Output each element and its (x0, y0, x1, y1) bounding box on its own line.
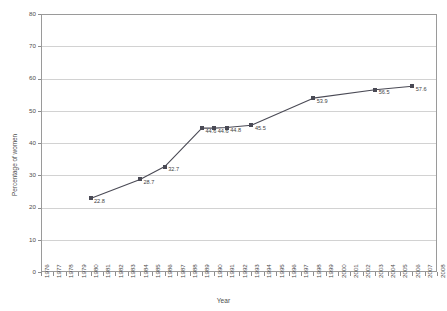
gridline (42, 175, 436, 176)
x-tick-label: 1988 (192, 264, 198, 278)
x-tick-label: 1980 (93, 264, 99, 278)
data-point-label: 44.6 (218, 129, 229, 135)
x-tick-label: 2007 (427, 264, 433, 278)
data-point-marker (163, 165, 167, 169)
x-tick-label: 1985 (155, 264, 161, 278)
data-point-marker (89, 196, 93, 200)
gridline (42, 143, 436, 144)
data-point-label: 45.5 (255, 126, 266, 132)
x-tick-label: 1991 (229, 264, 235, 278)
data-point-label: 22.8 (94, 199, 105, 205)
y-tick-label: 10 (10, 237, 36, 243)
x-axis-title: Year (0, 297, 447, 304)
x-tick-mark (375, 272, 376, 276)
x-tick-label: 2005 (402, 264, 408, 278)
data-point-marker (138, 177, 142, 181)
data-point-label: 57.6 (416, 87, 427, 93)
y-tick-label: 80 (10, 11, 36, 17)
x-tick-mark (338, 272, 339, 276)
x-tick-label: 1997 (303, 264, 309, 278)
x-tick-label: 1998 (316, 264, 322, 278)
x-tick-mark (177, 272, 178, 276)
x-tick-label: 1996 (291, 264, 297, 278)
data-point-marker (200, 126, 204, 130)
data-point-marker (311, 96, 315, 100)
y-tick-mark (38, 111, 41, 112)
x-tick-mark (78, 272, 79, 276)
x-tick-mark (239, 272, 240, 276)
x-tick-label: 1983 (130, 264, 136, 278)
data-point-marker (373, 88, 377, 92)
y-tick-label: 70 (10, 43, 36, 49)
x-tick-label: 2004 (390, 264, 396, 278)
x-tick-mark (437, 272, 438, 276)
gridline (42, 240, 436, 241)
data-point-marker (249, 123, 253, 127)
x-tick-label: 2001 (353, 264, 359, 278)
x-tick-label: 1976 (44, 264, 50, 278)
x-tick-label: 1979 (81, 264, 87, 278)
x-tick-mark (41, 272, 42, 276)
x-tick-label: 1978 (68, 264, 74, 278)
x-tick-label: 2003 (378, 264, 384, 278)
x-tick-label: 1999 (328, 264, 334, 278)
x-tick-label: 1989 (204, 264, 210, 278)
y-tick-mark (38, 208, 41, 209)
x-tick-label: 1987 (180, 264, 186, 278)
data-point-label: 32.7 (168, 167, 179, 173)
y-tick-label: 50 (10, 108, 36, 114)
y-tick-mark (38, 79, 41, 80)
y-tick-mark (38, 240, 41, 241)
x-tick-label: 2008 (440, 264, 446, 278)
x-tick-label: 1993 (254, 264, 260, 278)
x-tick-mark (140, 272, 141, 276)
x-tick-label: 1994 (266, 264, 272, 278)
y-tick-label: 20 (10, 204, 36, 210)
y-tick-label: 60 (10, 75, 36, 81)
x-tick-mark (276, 272, 277, 276)
x-tick-label: 1992 (242, 264, 248, 278)
x-tick-label: 2002 (365, 264, 371, 278)
x-tick-label: 1982 (118, 264, 124, 278)
data-point-label: 44.8 (230, 128, 241, 134)
x-tick-label: 1984 (143, 264, 149, 278)
data-point-label: 28.7 (144, 180, 155, 186)
x-tick-label: 2006 (415, 264, 421, 278)
data-point-label: 44.6 (205, 129, 216, 135)
y-tick-mark (38, 14, 41, 15)
gridline (42, 111, 436, 112)
line-chart: 01020304050607080 Percentage of women 19… (0, 0, 447, 311)
y-tick-mark (38, 143, 41, 144)
data-point-label: 53.9 (317, 99, 328, 105)
y-tick-label: 0 (10, 269, 36, 275)
gridline (42, 208, 436, 209)
gridline (42, 46, 436, 47)
plot-area (41, 14, 437, 272)
x-tick-label: 2000 (341, 264, 347, 278)
y-tick-mark (38, 46, 41, 47)
x-tick-label: 1981 (105, 264, 111, 278)
data-point-label: 56.5 (379, 90, 390, 96)
y-tick-mark (38, 175, 41, 176)
y-axis-title: Percentage of women (11, 134, 18, 196)
x-tick-label: 1986 (167, 264, 173, 278)
x-tick-label: 1995 (279, 264, 285, 278)
gridline (42, 79, 436, 80)
x-tick-label: 1977 (56, 264, 62, 278)
x-tick-label: 1990 (217, 264, 223, 278)
data-point-marker (410, 84, 414, 88)
